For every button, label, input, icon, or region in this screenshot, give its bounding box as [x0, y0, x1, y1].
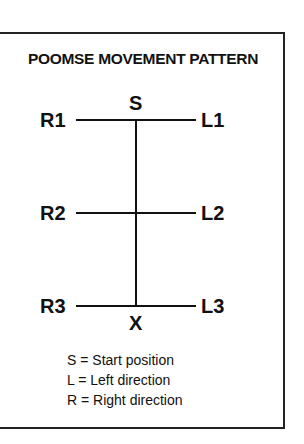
legend-item-left: L = Left direction [67, 370, 183, 390]
start-label: S [129, 93, 142, 113]
legend-item-start: S = Start position [67, 350, 183, 370]
diagram-title: POOMSE MOVEMENT PATTERN [0, 50, 286, 68]
row-3-line [76, 305, 196, 307]
l1-label: L1 [201, 110, 224, 130]
legend-item-right: R = Right direction [67, 390, 183, 410]
r3-label: R3 [40, 296, 66, 316]
r2-label: R2 [40, 203, 66, 223]
l3-label: L3 [201, 296, 224, 316]
row-2-line [76, 212, 196, 214]
legend: S = Start position L = Left direction R … [67, 350, 183, 410]
end-label: X [129, 313, 142, 333]
row-1-line [76, 119, 196, 121]
l2-label: L2 [201, 203, 224, 223]
r1-label: R1 [40, 110, 66, 130]
